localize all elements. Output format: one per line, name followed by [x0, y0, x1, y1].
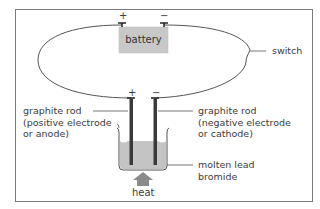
anode-rod — [130, 98, 134, 165]
electrolyte-label: molten lead bromide — [198, 159, 255, 182]
wire-top-right — [164, 25, 250, 50]
switch-label: switch — [272, 45, 302, 57]
cathode-rod — [154, 98, 158, 165]
battery-label: battery — [119, 28, 168, 52]
electrode-positive-sign: + — [128, 87, 136, 99]
heat-label: heat — [132, 187, 155, 199]
battery-negative-sign: − — [160, 10, 168, 22]
wire-left — [38, 25, 131, 98]
molten-lead-bromide — [120, 141, 166, 169]
switch-icon — [155, 50, 250, 98]
cathode-label: graphite rod (negative electrode or cath… — [198, 105, 291, 140]
electrode-negative-sign: − — [152, 87, 160, 99]
anode-label: graphite rod (positive electrode or anod… — [23, 105, 112, 140]
battery-positive-sign: + — [119, 10, 127, 22]
heat-arrow-icon — [133, 172, 153, 186]
